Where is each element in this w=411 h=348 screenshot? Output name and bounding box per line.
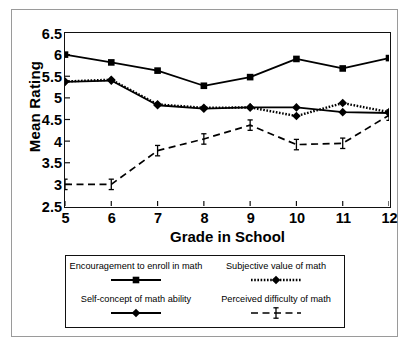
marker-square xyxy=(386,55,389,62)
y-tick-label: 4 xyxy=(54,136,62,148)
legend-item[interactable]: Perceived difficulty of math xyxy=(206,294,346,320)
y-axis-tick-labels: 6.565.554.543.532.5 xyxy=(18,10,62,242)
series-line xyxy=(65,81,389,113)
chart-plot-area-wrapper: Mean Rating 6.565.554.543.532.5 56789101… xyxy=(12,10,399,242)
x-tick-label: 6 xyxy=(108,210,116,226)
y-tick-label: 5 xyxy=(54,92,62,104)
marker-square xyxy=(339,65,346,72)
marker-square xyxy=(247,74,254,81)
chart-legend: Encouragement to enroll in mathSubjectiv… xyxy=(65,255,345,328)
marker-diamond xyxy=(272,276,281,285)
x-tick-label: 9 xyxy=(247,210,255,226)
marker-ibeam xyxy=(109,179,114,189)
y-tick-label: 3 xyxy=(54,179,62,191)
y-tick-label: 6.5 xyxy=(42,28,62,40)
marker-square xyxy=(133,277,140,284)
marker-diamond xyxy=(153,101,162,110)
solid-square-key xyxy=(66,273,206,287)
y-tick-label: 6 xyxy=(54,49,62,61)
x-tick-label: 12 xyxy=(382,210,398,226)
marker-square xyxy=(293,56,300,63)
marker-square xyxy=(108,59,115,66)
marker-diamond xyxy=(338,99,347,108)
marker-square xyxy=(154,67,161,74)
legend-item-label: Encouragement to enroll in math xyxy=(66,261,206,272)
marker-diamond xyxy=(200,104,209,113)
marker-diamond xyxy=(132,309,141,318)
x-axis-title: Grade in School xyxy=(64,228,391,245)
figure-frame: Mean Rating 6.565.554.543.532.5 56789101… xyxy=(11,9,398,337)
y-tick-label: 2.5 xyxy=(42,201,62,213)
legend-item[interactable]: Subjective value of math xyxy=(206,261,346,287)
marker-diamond xyxy=(292,112,301,121)
marker-square xyxy=(65,51,68,58)
series-3 xyxy=(65,76,389,117)
x-tick-label: 8 xyxy=(200,210,208,226)
solid-diamond-key xyxy=(66,306,206,320)
legend-item[interactable]: Encouragement to enroll in math xyxy=(66,261,206,287)
marker-diamond xyxy=(246,103,255,112)
marker-diamond xyxy=(107,76,116,85)
legend-item-label: Subjective value of math xyxy=(206,261,346,272)
x-tick-label: 10 xyxy=(289,210,305,226)
marker-square xyxy=(201,82,208,89)
legend-item-label: Self-concept of math ability xyxy=(66,294,206,305)
legend-item-label: Perceived difficulty of math xyxy=(206,294,346,305)
y-tick-label: 4.5 xyxy=(42,114,62,126)
x-tick-label: 7 xyxy=(154,210,162,226)
y-tick-label: 5.5 xyxy=(42,71,62,83)
marker-diamond xyxy=(65,78,69,87)
plot-box xyxy=(64,32,391,208)
x-tick-label: 11 xyxy=(336,210,351,226)
legend-item[interactable]: Self-concept of math ability xyxy=(66,294,206,320)
series-line xyxy=(65,115,389,184)
y-tick-label: 3.5 xyxy=(42,157,62,169)
series-1 xyxy=(65,51,389,89)
dashed-ibeam-key xyxy=(206,306,346,320)
x-tick-label: 5 xyxy=(62,210,70,226)
marker-diamond xyxy=(292,103,301,112)
data-series-layer xyxy=(65,33,389,206)
dotted-diamond-key xyxy=(206,273,346,287)
marker-diamond xyxy=(338,108,347,117)
series-4 xyxy=(65,110,389,190)
